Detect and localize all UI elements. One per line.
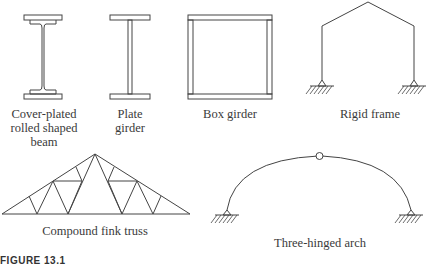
label-rigid-frame: Rigid frame [330, 107, 410, 121]
figure-caption: FIGURE 13.1 [0, 255, 66, 266]
three-hinged-arch-icon [211, 153, 423, 224]
label-cover-plated-beam: Cover-plated rolled shaped beam [6, 107, 82, 149]
label-line: girder [100, 121, 160, 135]
label-line: rolled shaped [6, 121, 82, 135]
label-plate-girder: Plate girder [100, 107, 160, 135]
label-line: Cover-plated [6, 107, 82, 121]
cover-plated-beam-icon [24, 15, 62, 99]
label-line: Three-hinged arch [270, 236, 370, 250]
label-compound-fink-truss: Compound fink truss [40, 224, 150, 238]
label-three-hinged-arch: Three-hinged arch [270, 236, 370, 250]
label-box-girder: Box girder [190, 107, 270, 121]
label-line: Compound fink truss [40, 224, 150, 238]
label-line: Box girder [190, 107, 270, 121]
label-line: Rigid frame [330, 107, 410, 121]
label-line: beam [6, 135, 82, 149]
rigid-frame-icon [306, 2, 426, 94]
plate-girder-icon [110, 15, 150, 99]
compound-fink-truss-icon [2, 154, 190, 214]
box-girder-icon [188, 15, 272, 99]
label-line: Plate [100, 107, 160, 121]
